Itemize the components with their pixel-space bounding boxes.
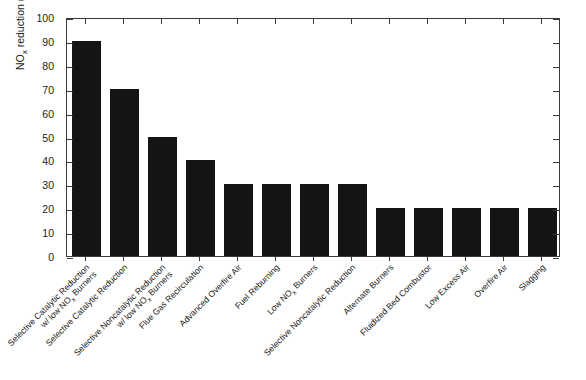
y-axis-tick-label: 100 <box>36 13 54 24</box>
x-axis-tick-mark <box>503 256 504 261</box>
x-axis-tick-mark <box>275 256 276 261</box>
bar <box>262 184 291 256</box>
y-axis-tick-label: 10 <box>42 228 54 239</box>
y-axis-tick-label: 30 <box>42 180 54 191</box>
bar <box>376 208 405 256</box>
bar <box>300 184 329 256</box>
y-axis-tick-label: 20 <box>42 204 54 215</box>
x-axis-tick-mark <box>161 256 162 261</box>
y-axis-tick-label: 0 <box>48 252 54 263</box>
bar <box>224 184 253 256</box>
bar <box>338 184 367 256</box>
bar <box>148 137 177 257</box>
y-axis-tick-labels: 0102030405060708090100 <box>0 18 62 257</box>
x-axis-tick-label-line1: Fluidized Bed Combustor <box>358 262 433 337</box>
bar <box>490 208 519 256</box>
x-axis-tick-mark-top <box>85 19 86 24</box>
x-axis-tick-mark-top <box>161 19 162 24</box>
x-axis-tick-mark <box>199 256 200 261</box>
x-axis-tick-label-line1: Overfire Air <box>472 262 509 299</box>
x-axis-tick-mark-top <box>351 19 352 24</box>
figure-canvas: NOx reduction (%) 0102030405060708090100… <box>0 0 586 380</box>
bar <box>414 208 443 256</box>
y-axis-tick-label: 50 <box>42 132 54 143</box>
x-axis-tick-mark-top <box>465 19 466 24</box>
x-axis-tick-mark-top <box>541 19 542 24</box>
x-axis-tick-mark-top <box>313 19 314 24</box>
bar <box>186 160 215 256</box>
y-axis-tick-label: 40 <box>42 156 54 167</box>
x-axis-tick-mark-top <box>199 19 200 24</box>
x-axis-tick-mark-top <box>123 19 124 24</box>
x-axis-tick-label-line1: Slagging <box>517 262 548 293</box>
y-axis-tick-label: 80 <box>42 60 54 71</box>
x-axis-tick-mark-top <box>427 19 428 24</box>
x-axis-tick-mark-top <box>237 19 238 24</box>
bar <box>110 89 139 256</box>
x-axis-ticks-top <box>66 19 560 25</box>
x-axis-tick-mark <box>427 256 428 261</box>
x-axis-tick-mark <box>351 256 352 261</box>
bars-layer <box>67 19 559 256</box>
bar <box>72 41 101 256</box>
y-axis-tick-label: 90 <box>42 36 54 47</box>
y-axis-tick-label: 60 <box>42 108 54 119</box>
plot-area <box>66 18 560 257</box>
bar <box>528 208 557 256</box>
bar <box>452 208 481 256</box>
x-axis-tick-mark-top <box>275 19 276 24</box>
x-axis-ticks-bottom <box>66 256 560 262</box>
x-axis-tick-mark <box>237 256 238 261</box>
x-axis-tick-mark <box>541 256 542 261</box>
x-axis-tick-mark <box>465 256 466 261</box>
x-axis-tick-mark-top <box>389 19 390 24</box>
y-axis-tick-label: 70 <box>42 84 54 95</box>
x-axis-tick-mark <box>123 256 124 261</box>
x-axis-tick-mark <box>313 256 314 261</box>
x-axis-tick-mark-top <box>503 19 504 24</box>
x-axis-tick-mark <box>85 256 86 261</box>
x-axis-tick-mark <box>389 256 390 261</box>
